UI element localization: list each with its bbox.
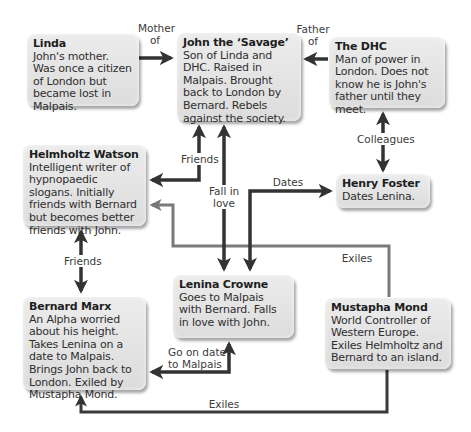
node-description: Intelligent writer of hypnopaedic slogan… <box>29 162 140 238</box>
arrow-dates <box>250 191 330 269</box>
node-name: Henry Foster <box>342 178 424 191</box>
node-name: Lenina Crowne <box>179 279 288 292</box>
node-name: Bernard Marx <box>29 301 140 314</box>
label-exiles-bernard: Exiles <box>207 398 241 410</box>
node-mustapha: Mustapha Mond World Controller of Wester… <box>325 298 451 369</box>
label-line: Go on date <box>168 346 226 358</box>
node-description: Man of power in London. Does not know he… <box>335 54 439 117</box>
label-friends-helmholtz-bernard: Friends <box>64 255 100 267</box>
node-dhc: The DHC Man of power in London. Does not… <box>329 37 445 108</box>
node-description: Goes to Malpais with Bernard. Falls in l… <box>179 292 288 330</box>
label-line: to Malpais <box>168 358 226 370</box>
label-go-on-date: Go on date to Malpais <box>168 346 226 370</box>
label-fall-in-love: Fall in love <box>209 185 239 209</box>
node-name: The DHC <box>335 41 439 54</box>
node-helmholtz: Helmholtz Watson Intelligent writer of h… <box>23 145 146 226</box>
node-description: John's mother. Was once a citizen of Lon… <box>33 51 133 114</box>
node-name: Mustapha Mond <box>331 302 445 315</box>
label-line: Fall in <box>209 185 239 197</box>
node-lenina: Lenina Crowne Goes to Malpais with Berna… <box>173 275 294 338</box>
label-father-of: Father of <box>296 23 330 47</box>
node-name: Helmholtz Watson <box>29 149 140 162</box>
label-line: Mother <box>138 22 172 34</box>
node-name: Linda <box>33 38 133 51</box>
node-john: John the ‘Savage’ Son of Linda and DHC. … <box>177 33 301 121</box>
character-map-diagram: Linda John's mother. Was once a citizen … <box>0 0 471 432</box>
node-linda: Linda John's mother. Was once a citizen … <box>27 34 139 106</box>
node-description: Dates Lenina. <box>342 191 424 204</box>
label-line: love <box>209 197 239 209</box>
node-bernard: Bernard Marx An Alpha worried about his … <box>23 297 146 390</box>
label-friends-john-helmholtz: Friends <box>181 153 217 165</box>
label-line: of <box>138 34 172 46</box>
label-colleagues: Colleagues <box>357 133 411 145</box>
label-mother-of: Mother of <box>138 22 172 46</box>
node-description: Son of Linda and DHC. Raised in Malpais.… <box>183 50 295 126</box>
label-exiles-helmholtz: Exiles <box>340 252 374 264</box>
node-description: World Controller of Western Europe. Exil… <box>331 315 445 365</box>
node-henry: Henry Foster Dates Lenina. <box>336 174 430 208</box>
label-line: of <box>296 35 330 47</box>
node-name: John the ‘Savage’ <box>183 37 295 50</box>
label-line: Father <box>296 23 330 35</box>
label-dates: Dates <box>272 176 304 188</box>
node-description: An Alpha worried about his height. Takes… <box>29 314 140 402</box>
